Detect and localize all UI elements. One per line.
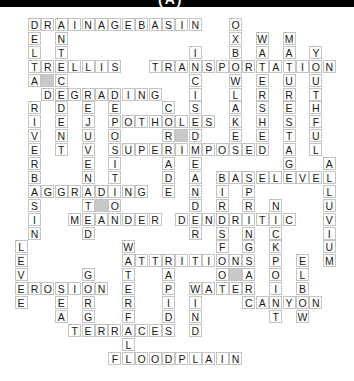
grid-cell[interactable]: C	[189, 74, 202, 87]
grid-cell[interactable]: O	[216, 268, 229, 281]
grid-cell[interactable]: 'L	[15, 240, 28, 253]
grid-cell[interactable]: D	[82, 227, 95, 240]
grid-cell[interactable]: E	[189, 115, 202, 128]
grid-cell[interactable]: D	[95, 185, 108, 198]
grid-cell[interactable]: 'M	[68, 213, 81, 226]
grid-cell[interactable]: U	[309, 129, 322, 142]
grid-cell[interactable]: U	[323, 199, 336, 212]
grid-cell[interactable]: O	[149, 352, 162, 365]
grid-cell[interactable]: E	[256, 129, 269, 142]
grid-cell[interactable]: Y	[283, 296, 296, 309]
grid-cell[interactable]: 'R	[28, 101, 41, 114]
grid-cell[interactable]: T	[269, 310, 282, 323]
grid-cell[interactable]: D	[189, 129, 202, 142]
grid-cell[interactable]: U	[323, 240, 336, 253]
grid-cell[interactable]: T	[55, 46, 68, 59]
grid-cell[interactable]: P	[216, 60, 229, 73]
grid-cell[interactable]: K	[229, 115, 242, 128]
grid-cell[interactable]: P	[135, 143, 148, 156]
grid-cell[interactable]: O	[41, 282, 54, 295]
grid-cell[interactable]: C	[135, 324, 148, 337]
grid-cell[interactable]: N	[229, 254, 242, 267]
grid-cell[interactable]: S	[242, 254, 255, 267]
grid-cell[interactable]: G	[108, 18, 121, 31]
grid-cell[interactable]: 'R	[162, 254, 175, 267]
grid-cell[interactable]: R	[95, 324, 108, 337]
grid-cell[interactable]: L	[229, 88, 242, 101]
grid-cell[interactable]: I	[162, 296, 175, 309]
grid-cell[interactable]: R	[242, 60, 255, 73]
grid-cell[interactable]: S	[256, 101, 269, 114]
grid-cell[interactable]: H	[149, 115, 162, 128]
grid-cell[interactable]: P	[175, 352, 188, 365]
grid-cell[interactable]: D	[189, 199, 202, 212]
grid-cell[interactable]: 'A	[242, 268, 255, 281]
grid-cell[interactable]: N	[323, 60, 336, 73]
grid-cell[interactable]: I	[269, 282, 282, 295]
grid-cell[interactable]: A	[162, 157, 175, 170]
grid-cell[interactable]: A	[82, 185, 95, 198]
grid-cell[interactable]: B	[296, 282, 309, 295]
grid-cell[interactable]: C	[55, 74, 68, 87]
grid-cell[interactable]: G	[242, 240, 255, 253]
grid-cell[interactable]: I	[323, 227, 336, 240]
grid-cell[interactable]: A	[202, 352, 215, 365]
grid-cell[interactable]: R	[242, 282, 255, 295]
grid-cell[interactable]: E	[135, 213, 148, 226]
grid-cell[interactable]: 'B	[216, 171, 229, 184]
grid-cell[interactable]: L	[269, 171, 282, 184]
grid-cell[interactable]: B	[135, 18, 148, 31]
grid-cell[interactable]: L	[28, 46, 41, 59]
grid-cell[interactable]: A	[122, 324, 135, 337]
grid-cell[interactable]: I	[269, 213, 282, 226]
grid-cell[interactable]: E	[55, 60, 68, 73]
grid-cell[interactable]: O	[122, 115, 135, 128]
grid-cell[interactable]: N	[135, 88, 148, 101]
grid-cell[interactable]: N	[55, 129, 68, 142]
grid-cell[interactable]: I	[122, 88, 135, 101]
grid-cell[interactable]: O	[296, 296, 309, 309]
grid-cell[interactable]: I	[28, 115, 41, 128]
grid-cell[interactable]: 'W	[122, 240, 135, 253]
grid-cell[interactable]: A	[229, 101, 242, 114]
grid-cell[interactable]: R	[28, 157, 41, 170]
grid-cell[interactable]: E	[229, 282, 242, 295]
grid-cell[interactable]: 'E	[15, 282, 28, 295]
grid-cell[interactable]: E	[189, 213, 202, 226]
grid-cell[interactable]: S	[202, 60, 215, 73]
grid-cell[interactable]: E	[55, 296, 68, 309]
grid-cell[interactable]: G	[82, 310, 95, 323]
grid-cell[interactable]: 'D	[41, 88, 54, 101]
grid-cell[interactable]: T	[135, 254, 148, 267]
grid-cell[interactable]: E	[283, 101, 296, 114]
grid-cell[interactable]: F	[216, 240, 229, 253]
grid-cell[interactable]: 'D	[175, 213, 188, 226]
grid-cell[interactable]: E	[309, 171, 322, 184]
grid-cell[interactable]: E	[283, 171, 296, 184]
grid-cell[interactable]: E	[122, 282, 135, 295]
grid-cell[interactable]: E	[82, 324, 95, 337]
grid-cell[interactable]: O	[162, 115, 175, 128]
grid-cell[interactable]: A	[149, 18, 162, 31]
grid-cell[interactable]: O	[82, 282, 95, 295]
grid-cell[interactable]: 'M	[283, 32, 296, 45]
grid-cell[interactable]: 'W	[189, 282, 202, 295]
grid-cell[interactable]: A	[55, 310, 68, 323]
grid-cell[interactable]: S	[229, 143, 242, 156]
grid-cell[interactable]: T	[108, 171, 121, 184]
grid-cell[interactable]: 'T	[149, 60, 162, 73]
grid-cell[interactable]: O	[135, 352, 148, 365]
grid-cell[interactable]: U	[309, 74, 322, 87]
grid-cell[interactable]: P	[242, 185, 255, 198]
grid-cell[interactable]: N	[82, 18, 95, 31]
grid-cell[interactable]: N	[95, 282, 108, 295]
grid-cell[interactable]: 'I	[189, 46, 202, 59]
grid-cell[interactable]: E	[15, 296, 28, 309]
grid-cell[interactable]: R	[229, 213, 242, 226]
grid-cell[interactable]: A	[256, 296, 269, 309]
grid-cell[interactable]: A	[283, 143, 296, 156]
grid-cell[interactable]: R	[216, 199, 229, 212]
grid-cell[interactable]: 'D	[108, 88, 121, 101]
grid-cell[interactable]: E	[242, 143, 255, 156]
grid-cell[interactable]: R	[189, 227, 202, 240]
